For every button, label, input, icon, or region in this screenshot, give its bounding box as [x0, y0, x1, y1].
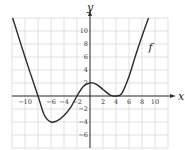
svg-text:10: 10 — [151, 98, 159, 106]
function-graph: −10−6−4−2246810108642−2−4−6 x y f — [0, 0, 185, 150]
curve-label: f — [148, 41, 155, 54]
svg-text:4: 4 — [84, 66, 88, 74]
svg-text:10: 10 — [80, 27, 88, 35]
svg-text:6: 6 — [84, 53, 88, 61]
svg-text:8: 8 — [140, 98, 144, 106]
svg-text:−2: −2 — [78, 105, 88, 113]
svg-text:−6: −6 — [46, 98, 56, 106]
x-axis-label: x — [178, 90, 185, 103]
svg-text:6: 6 — [127, 98, 131, 106]
svg-text:−4: −4 — [78, 118, 88, 126]
svg-text:4: 4 — [114, 98, 118, 106]
y-axis-label: y — [86, 1, 94, 14]
svg-text:−4: −4 — [59, 98, 69, 106]
svg-text:2: 2 — [101, 98, 105, 106]
svg-text:8: 8 — [84, 40, 88, 48]
svg-text:−6: −6 — [78, 131, 88, 139]
svg-text:−10: −10 — [18, 98, 32, 106]
